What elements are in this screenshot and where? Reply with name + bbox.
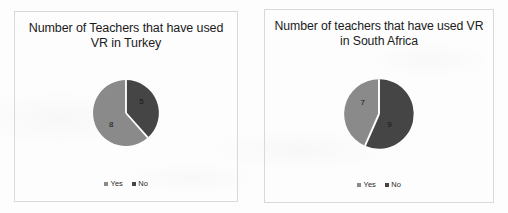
pie-graphic-turkey: 5 8 (91, 78, 161, 148)
pie-label-no-south-africa: 9 (387, 119, 391, 128)
pie-svg-turkey (91, 78, 161, 148)
pie-chart-south-africa: 7 9 (265, 49, 493, 180)
pie-chart-turkey: 5 8 (15, 52, 237, 180)
legend-item-no-turkey: No (132, 179, 148, 188)
legend-swatch-no-icon (385, 183, 389, 187)
legend-label-yes-south-africa: Yes (364, 180, 376, 189)
chart-panel-south-africa: Number of teachers that have used VR in … (264, 9, 494, 203)
legend-label-yes-turkey: Yes (111, 179, 123, 188)
chart-panel-turkey: Number of Teachers that have used VR in … (14, 11, 238, 202)
legend-label-no-turkey: No (138, 179, 148, 188)
legend-turkey: Yes No (104, 179, 148, 201)
chart-title-south-africa: Number of teachers that have used VR in … (273, 19, 485, 49)
legend-label-no-south-africa: No (391, 180, 401, 189)
legend-item-yes-turkey: Yes (104, 179, 123, 188)
pie-svg-south-africa (342, 77, 416, 151)
chart-title-turkey: Number of Teachers that have used VR in … (23, 21, 229, 52)
pie-label-yes-south-africa: 7 (360, 98, 364, 107)
pie-graphic-south-africa: 7 9 (342, 77, 416, 151)
legend-swatch-no-icon (132, 182, 136, 186)
legend-item-no-south-africa: No (385, 180, 401, 189)
chart-panels-container: Number of Teachers that have used VR in … (0, 0, 508, 213)
pie-label-no-turkey: 5 (139, 97, 143, 106)
legend-swatch-yes-icon (357, 183, 361, 187)
legend-swatch-yes-icon (104, 182, 108, 186)
pie-label-yes-turkey: 8 (109, 120, 113, 129)
legend-item-yes-south-africa: Yes (357, 180, 376, 189)
legend-south-africa: Yes No (357, 180, 401, 202)
